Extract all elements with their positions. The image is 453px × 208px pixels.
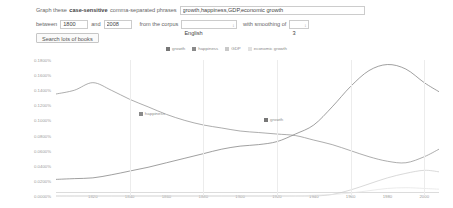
and-label: and [91,21,100,27]
legend-label: GDP [231,46,241,51]
graph-these-label: Graph these [36,7,67,13]
legend-item-economic-growth[interactable]: economic growth [248,46,287,51]
search-button[interactable]: Search lots of books [36,33,99,43]
inline-series-label-growth[interactable]: growth [264,117,283,122]
grid-line [130,60,131,196]
smoothing-label: with smoothing of [243,21,287,27]
series-lines [56,60,439,196]
year-end-input[interactable] [104,20,132,29]
legend-label: economic growth [254,46,287,51]
case-sensitive-label: case-sensitive [69,7,107,13]
grid-line [277,60,278,196]
series-line-economic-growth[interactable] [56,188,439,196]
range-row: between and from the corpus English ↕ wi… [36,18,426,30]
year-start-input[interactable] [60,20,88,29]
grid-line [351,60,352,196]
chevron-updown-icon: ↕ [304,22,306,29]
inline-series-label-happiness[interactable]: happiness [139,111,165,116]
legend-item-GDP[interactable]: GDP [225,46,241,51]
between-label: between [36,21,57,27]
series-swatch-icon [264,118,268,122]
legend-label: growth [172,46,185,51]
grid-line [424,60,425,196]
phrases-input[interactable] [180,6,365,15]
smoothing-select[interactable]: 3 ↕ [289,20,309,29]
submit-row: Search lots of books [36,32,426,44]
legend-swatch-icon [166,47,170,51]
legend-swatch-icon [225,47,229,51]
corpus-select[interactable]: English ↕ [181,20,237,29]
chart-area: happinessgrowth [0,56,453,206]
series-label: growth [270,117,283,122]
plot-region: happinessgrowth [56,60,439,196]
legend-item-growth[interactable]: growth [166,46,185,51]
series-line-growth[interactable] [56,65,439,180]
phrases-row: Graph these case-sensitive comma-separat… [36,4,426,16]
series-label: happiness [145,111,165,116]
series-line-happiness[interactable] [56,83,439,163]
legend-swatch-icon [248,47,252,51]
legend-swatch-icon [192,47,196,51]
chevron-updown-icon: ↕ [232,22,234,29]
legend-item-happiness[interactable]: happiness [192,46,218,51]
series-swatch-icon [139,112,143,116]
smoothing-selected-value: 3 [290,30,295,36]
query-form: Graph these case-sensitive comma-separat… [36,4,426,46]
corpus-label: from the corpus [140,21,179,27]
grid-line [203,60,204,196]
chart-legend: growthhappinessGDPeconomic growth [0,46,453,51]
comma-separated-label: comma-separated phrases [110,7,177,13]
ngram-viewer-page: Graph these case-sensitive comma-separat… [0,0,453,208]
corpus-selected-value: English [182,30,202,36]
legend-label: happiness [198,46,218,51]
